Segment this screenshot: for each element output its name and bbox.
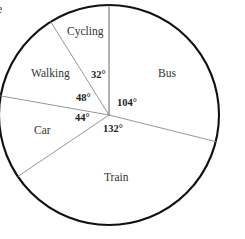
pie-chart-figure: e Cycling Bus Walking Car Train 32° 48° … <box>0 0 245 239</box>
angle-label-walking: 48° <box>76 93 91 104</box>
angle-label-cycling: 32° <box>91 70 106 81</box>
slice-label-train: Train <box>104 172 129 184</box>
slice-label-bus: Bus <box>158 68 176 80</box>
angle-label-train: 132° <box>103 124 123 135</box>
slice-label-cycling: Cycling <box>67 26 103 38</box>
pie-chart-canvas <box>0 0 245 239</box>
angle-label-car: 44° <box>75 113 90 124</box>
slice-label-car: Car <box>34 125 51 137</box>
slice-label-walking: Walking <box>31 68 70 80</box>
angle-label-bus: 104° <box>117 98 137 109</box>
